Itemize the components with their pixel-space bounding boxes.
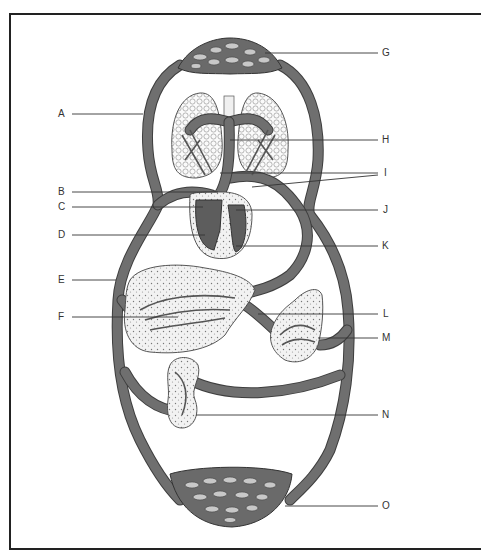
- label-o: O: [382, 501, 390, 511]
- kidney: [168, 358, 199, 429]
- label-f: F: [58, 312, 64, 322]
- label-j: J: [383, 205, 388, 215]
- lower-body-capillary-bed: [170, 467, 292, 527]
- label-k: K: [382, 241, 389, 251]
- label-b: B: [58, 187, 65, 197]
- label-d: D: [58, 230, 65, 240]
- label-l: L: [383, 309, 389, 319]
- label-g: G: [382, 48, 390, 58]
- label-i: I: [384, 168, 387, 178]
- liver: [124, 265, 255, 353]
- heart: [190, 192, 252, 259]
- label-h: H: [382, 135, 389, 145]
- head-capillary-bed: [178, 38, 282, 74]
- label-c: C: [58, 202, 65, 212]
- label-n: N: [382, 410, 389, 420]
- label-e: E: [58, 275, 65, 285]
- label-a: A: [58, 109, 65, 119]
- label-m: M: [382, 333, 390, 343]
